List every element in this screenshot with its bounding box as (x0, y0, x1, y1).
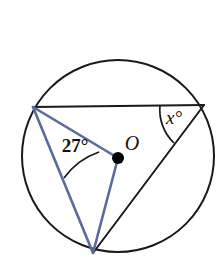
geometry-diagram-root: 27° x° O (0, 0, 223, 274)
angle-label-x-degrees: x° (165, 107, 182, 128)
center-point-label: O (125, 132, 139, 154)
geometry-figure: 27° x° O (0, 0, 223, 274)
center-point-dot (112, 152, 124, 164)
diagram-background (0, 0, 223, 274)
angle-label-27-degrees: 27° (62, 135, 89, 156)
